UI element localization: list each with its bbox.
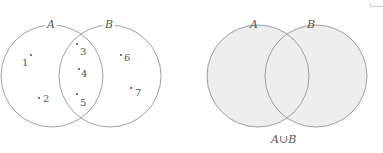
set-b-label: B <box>104 18 113 31</box>
point-label: 7 <box>135 87 141 98</box>
set-a-label: A <box>249 18 258 31</box>
point-label: 1 <box>22 57 28 68</box>
point-dot <box>78 68 80 70</box>
point-label: 2 <box>43 93 49 104</box>
union-caption: A∪B <box>270 133 296 146</box>
point-label: 3 <box>80 46 86 57</box>
right-venn: A B A∪B <box>207 18 367 146</box>
point-dot <box>130 87 132 89</box>
set-a-label: A <box>46 18 55 31</box>
set-b-circle <box>59 25 161 127</box>
venn-diagrams: A B 1 2 3 4 5 6 7 A B A∪B <box>0 0 383 153</box>
set-b-shaded <box>265 25 367 127</box>
left-venn: A B 1 2 3 4 5 6 7 <box>1 18 161 127</box>
point-dot <box>76 93 78 95</box>
point-label: 4 <box>81 68 87 79</box>
set-b-label: B <box>306 18 315 31</box>
point-dot <box>38 97 40 99</box>
point-label: 5 <box>80 97 86 108</box>
point-dot <box>120 54 122 56</box>
set-a-circle <box>1 25 103 127</box>
point-label: 6 <box>124 52 130 63</box>
point-dot <box>76 43 78 45</box>
point-dot <box>30 54 32 56</box>
